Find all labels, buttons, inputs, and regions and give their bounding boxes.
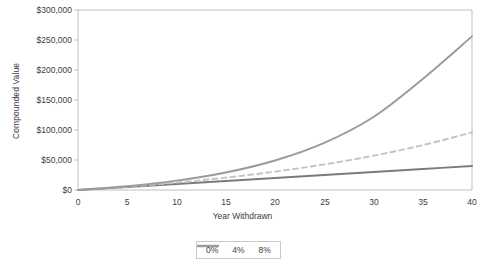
chart-figure: Compounded Value $300,000 $250,000 $200,…	[0, 0, 485, 264]
chart-legend: 0% 4% 8%	[196, 241, 281, 259]
x-tick-label: 5	[107, 197, 147, 207]
x-tick-label: 20	[255, 197, 295, 207]
plot-area	[0, 0, 485, 264]
x-tick-label: 35	[403, 197, 443, 207]
x-tick-label: 25	[305, 197, 345, 207]
legend-label-1: 4%	[232, 246, 244, 255]
x-axis-title: Year Withdrawn	[0, 211, 485, 221]
series-line-8%	[78, 36, 472, 190]
x-tick-label: 40	[452, 197, 485, 207]
x-tick-label: 0	[58, 197, 98, 207]
legend-item-2[interactable]: 8%	[259, 246, 271, 255]
legend-swatch-2	[197, 242, 219, 250]
x-tick-label: 15	[206, 197, 246, 207]
x-tick-label: 10	[157, 197, 197, 207]
legend-label-2: 8%	[259, 246, 271, 255]
legend-item-1[interactable]: 4%	[232, 246, 244, 255]
x-tick-label: 30	[354, 197, 394, 207]
